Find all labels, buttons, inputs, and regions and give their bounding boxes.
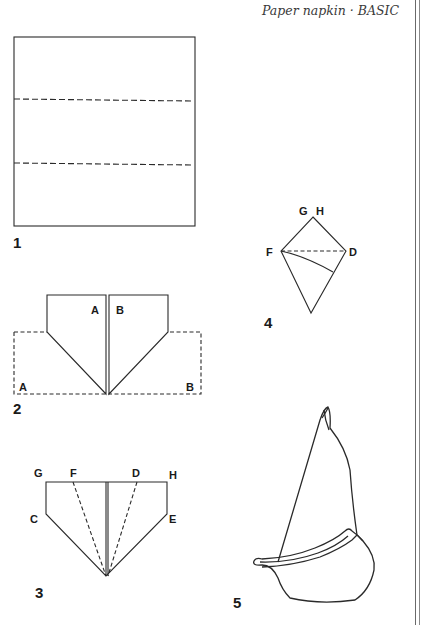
figure-2-folded [14,295,201,394]
folding-diagrams: 1 2 3 4 5 A B A B G F D H C E G H F D [0,0,425,625]
point-label: E [169,513,176,525]
point-label: H [169,469,177,481]
point-label: A [91,304,99,316]
point-label: D [132,467,140,479]
step-number-5: 5 [233,594,241,611]
point-label: B [116,304,124,316]
point-label: F [70,467,77,479]
figure-3-kite [46,482,167,576]
point-label: D [349,246,357,258]
figure-5-napkin-hat [254,407,375,602]
point-label: A [19,381,27,393]
point-label: G [34,467,43,479]
figure-1-square [14,37,195,226]
point-label: F [266,246,273,258]
point-label: B [186,381,194,393]
step-number-2: 2 [13,400,21,417]
point-label: C [30,513,38,525]
step-number-3: 3 [35,584,43,601]
point-label: G [299,205,308,217]
step-number-4: 4 [264,314,273,331]
point-label: H [316,205,324,217]
step-number-1: 1 [13,234,21,251]
figure-4-diamond [281,217,346,313]
